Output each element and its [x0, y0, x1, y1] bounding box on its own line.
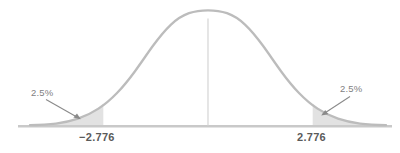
left-tail-shaded-region	[45, 104, 103, 126]
left-annotation-arrow	[46, 100, 81, 120]
normal-distribution-chart: 2.5% 2.5% −2.776 2.776	[0, 0, 400, 153]
right-annotation-arrow	[321, 97, 350, 116]
left-tail-percent-label: 2.5%	[31, 88, 53, 98]
chart-canvas	[0, 0, 400, 153]
x-axis-tick-label-negative: −2.776	[79, 132, 115, 143]
x-axis-tick-label-positive: 2.776	[297, 132, 326, 143]
right-tail-percent-label: 2.5%	[340, 84, 362, 94]
right-tail-shaded-region	[313, 104, 371, 126]
